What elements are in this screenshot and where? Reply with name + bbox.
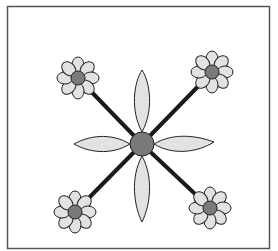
flower-diagram <box>0 0 278 251</box>
flower-bottom-left <box>54 191 96 233</box>
flower-top-left <box>57 57 99 99</box>
flower-top-right <box>191 51 233 93</box>
flower-bottom-right <box>189 187 231 229</box>
center-disc <box>130 132 154 156</box>
